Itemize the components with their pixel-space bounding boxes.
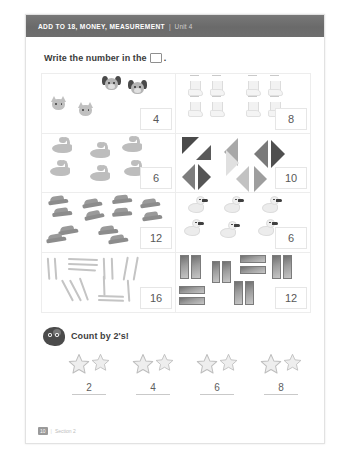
snake-icon <box>52 137 74 155</box>
star-answer-line[interactable]: 8 <box>264 381 298 395</box>
answer-box[interactable]: 4 <box>140 108 172 130</box>
star-pair <box>68 353 110 379</box>
shoe-icon <box>52 206 73 217</box>
stick-icon <box>111 257 113 279</box>
rectangle-block <box>283 255 292 279</box>
star-pair <box>132 353 174 379</box>
stick-icon <box>133 256 139 280</box>
triangle-shape <box>196 145 211 160</box>
shoe-icon <box>141 210 162 222</box>
page-header-bar: ADD TO 18, MONEY, MEASUREMENT | Unit 4 <box>26 15 324 37</box>
stick-icon <box>54 257 57 279</box>
shoe-icon <box>139 197 160 209</box>
star-pair <box>260 353 302 379</box>
cell-ducks: 6 <box>176 193 310 253</box>
duck-icon <box>188 196 207 213</box>
star-group: 6 <box>191 353 243 395</box>
snake-icon <box>90 165 112 183</box>
answer-box[interactable]: 12 <box>275 287 307 309</box>
star-group: 8 <box>255 353 307 395</box>
star-answer-line[interactable]: 6 <box>200 381 234 395</box>
header-title: ADD TO 18, MONEY, MEASUREMENT <box>38 23 165 30</box>
snake-icon <box>50 160 72 178</box>
star-icon <box>155 353 174 371</box>
stick-icon <box>98 295 124 298</box>
triangle-shape <box>254 166 267 192</box>
shoe-icon <box>45 231 66 243</box>
shoe-icon <box>83 208 104 221</box>
stick-icon <box>98 299 124 302</box>
triangle-shape <box>254 140 268 168</box>
stick-icon <box>79 277 89 300</box>
rectangle-block <box>245 281 254 305</box>
answer-box[interactable]: 10 <box>275 167 307 189</box>
shoe-icon <box>47 194 68 206</box>
snake-icon <box>90 142 112 160</box>
cell-sticks: 16 <box>42 253 176 313</box>
boot-icon <box>210 75 225 97</box>
stick-icon <box>68 258 98 261</box>
star-icon <box>196 353 218 374</box>
rectangle-block <box>240 255 266 263</box>
answer-box[interactable]: 6 <box>140 167 172 189</box>
answer-box[interactable]: 8 <box>275 108 307 130</box>
shoe-icon <box>81 196 102 208</box>
count-by-twos-header: Count by 2's! <box>41 323 129 349</box>
rectangle-block <box>179 286 205 294</box>
cell-triangles: 10 <box>176 134 310 194</box>
rectangle-block <box>222 261 231 283</box>
shoe-icon <box>112 206 133 217</box>
star-answer-line[interactable]: 4 <box>136 381 170 395</box>
triangle-shape <box>182 164 195 190</box>
answer-box[interactable]: 12 <box>140 227 172 249</box>
star-icon <box>283 353 302 371</box>
instruction-text-before: Write the number in the <box>44 53 147 63</box>
rectangle-block <box>191 255 201 279</box>
star-icon <box>68 353 90 374</box>
answer-box[interactable]: 6 <box>275 227 307 249</box>
cat-face-icon <box>77 102 94 117</box>
stick-icon <box>68 268 96 271</box>
empty-square-icon <box>150 53 162 63</box>
cell-snakes: 6 <box>42 134 176 194</box>
worksheet-page: ADD TO 18, MONEY, MEASUREMENT | Unit 4 W… <box>0 0 350 459</box>
star-answer-line[interactable]: 2 <box>72 381 106 395</box>
stick-icon <box>123 256 129 280</box>
answer-box[interactable]: 16 <box>140 287 172 309</box>
triangle-shape <box>236 166 249 192</box>
duck-icon <box>220 221 239 238</box>
rectangle-block <box>234 281 243 305</box>
rectangle-block <box>272 255 281 279</box>
instruction-text-after: . <box>164 53 167 63</box>
boot-icon <box>210 96 225 118</box>
mascot-character-icon <box>41 325 67 347</box>
header-separator: | <box>169 23 171 30</box>
duck-icon <box>184 219 203 236</box>
stick-icon <box>127 279 130 301</box>
shoe-icon <box>112 193 133 204</box>
count-by-twos-label: Count by 2's! <box>71 331 129 341</box>
stick-icon <box>47 257 50 279</box>
star-icon <box>219 353 238 371</box>
counting-grid: 486101261612 <box>41 73 311 313</box>
boot-icon <box>188 96 203 118</box>
shoe-icon <box>107 232 128 244</box>
cat-face-icon <box>50 96 67 111</box>
boot-icon <box>246 75 261 97</box>
rectangle-block <box>240 266 266 274</box>
star-group: 4 <box>127 353 179 395</box>
rectangle-block <box>212 261 220 283</box>
triangle-shape <box>271 140 285 168</box>
rectangle-block <box>179 297 205 305</box>
count-by-twos-section: Count by 2's! 2468 <box>41 323 311 409</box>
header-unit-label: Unit 4 <box>175 23 193 30</box>
cell-shoes: 12 <box>42 193 176 253</box>
footer-page-number: 10 <box>38 427 48 435</box>
duck-icon <box>262 196 281 213</box>
footer-section-label: Section 2 <box>55 428 76 434</box>
dog-face-icon <box>128 80 147 97</box>
rectangle-block <box>180 255 189 279</box>
star-group: 2 <box>63 353 115 395</box>
star-icon <box>91 353 110 371</box>
stars-row: 2468 <box>63 353 311 395</box>
